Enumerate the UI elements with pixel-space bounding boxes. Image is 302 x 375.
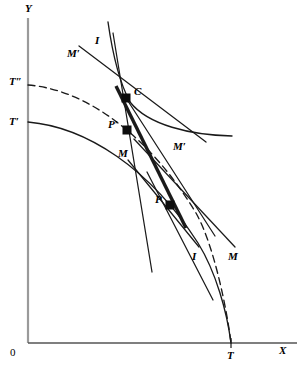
tick-label-t-prime: T′ — [9, 116, 19, 127]
figure-container: Y X 0 T″ T′ T C P′ P I M′ M′ M I M — [0, 0, 302, 375]
curve-label-i-lower: I — [192, 251, 196, 262]
line-through-p-lower-right — [147, 172, 213, 300]
tick-label-t-double-prime: T″ — [9, 76, 22, 87]
budget-line-from-c — [126, 98, 215, 236]
axis-label-y: Y — [25, 3, 32, 14]
ppf-curve-t-prime — [28, 122, 231, 343]
marker-point-c — [122, 94, 131, 103]
point-label-p-prime: P′ — [108, 119, 118, 130]
curve-label-m-middle: M — [118, 148, 128, 159]
marker-point-p-prime — [123, 126, 132, 135]
curves-group — [28, 22, 235, 343]
point-label-c: C — [134, 86, 141, 97]
tangent-line-m-prime-at-c — [79, 46, 206, 142]
curve-label-i-upper: I — [95, 35, 99, 46]
marker-point-p — [166, 201, 175, 210]
axis-label-origin: 0 — [10, 347, 16, 358]
axis-label-x: X — [279, 345, 286, 356]
tick-label-t-axis: T — [227, 350, 234, 361]
point-label-p: P — [155, 194, 162, 205]
curve-label-m-prime-right: M′ — [173, 141, 186, 152]
curve-label-m-lower: M — [228, 251, 238, 262]
diagram-canvas — [0, 0, 302, 375]
curve-label-m-prime-upper: M′ — [67, 48, 80, 59]
